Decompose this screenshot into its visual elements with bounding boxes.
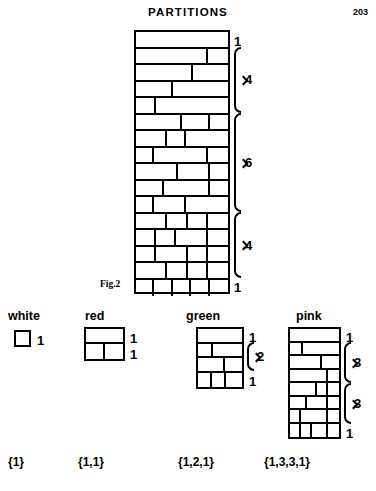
brick-cell — [136, 181, 164, 196]
brick-cell — [173, 280, 191, 297]
brick-cell — [210, 280, 228, 297]
brick-cell — [198, 329, 242, 342]
brick-row — [136, 115, 228, 132]
brick-cell — [154, 280, 172, 297]
white-partition-wall — [14, 330, 31, 347]
brick-row — [86, 329, 123, 344]
brick-cell — [16, 332, 29, 345]
brick-cell — [213, 344, 242, 357]
brick-row — [290, 424, 339, 438]
brick-row — [290, 329, 339, 343]
red-annotation-1-top: 1 — [130, 332, 137, 345]
legend-title-pink: pink — [296, 309, 322, 323]
brick-cell — [136, 230, 156, 245]
brick-cell — [212, 373, 226, 388]
brick-cell — [188, 247, 208, 262]
brick-cell — [136, 98, 156, 113]
brick-cell — [154, 197, 185, 212]
brick-cell — [210, 115, 228, 130]
brick-row — [136, 280, 228, 297]
brick-row — [86, 344, 123, 359]
brick-cell — [290, 329, 339, 341]
brick-cell — [328, 397, 339, 409]
main-annotation-1-bottom: 1 — [234, 281, 241, 294]
brick-cell — [328, 370, 339, 382]
brick-cell — [136, 263, 167, 278]
page-title: PARTITIONS — [0, 6, 376, 18]
brick-cell — [136, 148, 154, 163]
brick-cell — [317, 383, 328, 395]
red-annotation-1-bottom: 1 — [130, 348, 137, 361]
legend-caption-green: {1,2,1} — [178, 455, 214, 469]
brick-cell — [290, 383, 317, 395]
brick-row — [290, 410, 339, 424]
brick-cell — [290, 397, 307, 409]
legend-caption-white: {1} — [8, 455, 24, 469]
brick-cell — [164, 181, 210, 196]
brick-cell — [167, 131, 185, 146]
brick-cell — [136, 32, 228, 47]
brick-row — [290, 383, 339, 397]
brick-cell — [307, 397, 329, 409]
figure-label: Fig.2 — [100, 279, 120, 289]
brick-cell — [208, 148, 228, 163]
main-annotation-4-bottom: 4 — [245, 239, 252, 252]
brick-cell — [136, 164, 178, 179]
brick-cell — [328, 424, 339, 438]
brick-cell — [136, 131, 167, 146]
brick-row — [136, 197, 228, 214]
brick-cell — [290, 370, 328, 382]
brick-cell — [156, 230, 176, 245]
main-brace-4-top — [234, 47, 241, 113]
brick-cell — [186, 131, 228, 146]
brick-cell — [328, 410, 339, 422]
brick-cell — [210, 164, 228, 179]
brick-row — [136, 49, 228, 66]
brick-cell — [186, 197, 228, 212]
legend-caption-pink: {1,3,3,1} — [264, 455, 310, 469]
brick-row — [136, 148, 228, 165]
brick-cell — [86, 329, 123, 342]
brick-cell — [167, 214, 187, 229]
brick-row — [136, 263, 228, 280]
brick-cell — [136, 197, 154, 212]
green-annotation-2: 2 — [257, 350, 264, 363]
brick-row — [136, 32, 228, 49]
brick-cell — [193, 65, 228, 80]
pink-annotation-3-bottom: 3 — [354, 397, 361, 410]
legend-title-red: red — [85, 309, 104, 323]
brick-cell — [156, 247, 187, 262]
page-number: 203 — [353, 7, 368, 17]
brick-row — [136, 164, 228, 181]
brick-row — [136, 181, 228, 198]
brick-cell — [225, 358, 242, 371]
brick-row — [136, 214, 228, 231]
brick-row — [198, 344, 242, 359]
brick-cell — [188, 214, 208, 229]
main-partition-wall — [134, 30, 230, 294]
brick-row — [136, 230, 228, 247]
pink-annotation-3-top: 3 — [354, 356, 361, 369]
brick-row — [198, 373, 242, 388]
main-annotation-6: 6 — [245, 156, 252, 169]
brick-row — [198, 358, 242, 373]
brick-cell — [198, 358, 225, 371]
brick-cell — [173, 82, 228, 97]
brick-cell — [198, 373, 212, 388]
brick-cell — [136, 214, 167, 229]
brick-cell — [167, 263, 187, 278]
brick-cell — [136, 82, 173, 97]
red-partition-wall — [84, 327, 125, 361]
pink-annotation-1-bottom: 1 — [346, 427, 353, 440]
pink-brace-3-top — [344, 342, 351, 383]
pink-partition-wall — [288, 327, 341, 439]
brick-cell — [188, 263, 208, 278]
brick-row — [290, 370, 339, 384]
brick-row — [290, 397, 339, 411]
green-partition-wall — [196, 327, 244, 389]
brick-cell — [208, 214, 228, 229]
brick-cell — [290, 343, 303, 355]
brick-cell — [154, 148, 207, 163]
brick-cell — [136, 115, 182, 130]
brick-cell — [136, 247, 156, 262]
